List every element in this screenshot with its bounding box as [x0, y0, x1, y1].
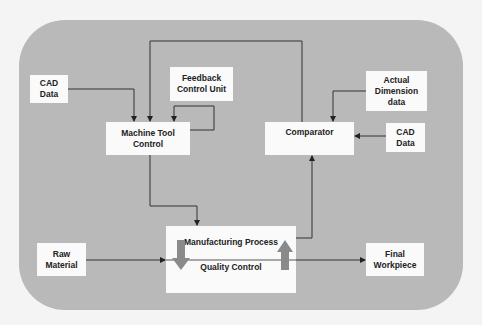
down-block-arrow-icon — [172, 240, 190, 270]
node-label: Final — [385, 249, 405, 260]
up-block-arrow-icon — [277, 240, 293, 270]
process-overlay — [0, 0, 482, 325]
node-label: Workpiece — [374, 260, 417, 271]
final-workpiece-node: Final Workpiece — [366, 243, 424, 276]
